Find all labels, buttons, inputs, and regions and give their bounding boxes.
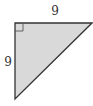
left-side-label: 9 xyxy=(4,55,12,69)
right-triangle xyxy=(15,23,92,99)
top-side-label: 9 xyxy=(51,4,59,18)
triangle-diagram: 9 9 xyxy=(0,0,93,106)
